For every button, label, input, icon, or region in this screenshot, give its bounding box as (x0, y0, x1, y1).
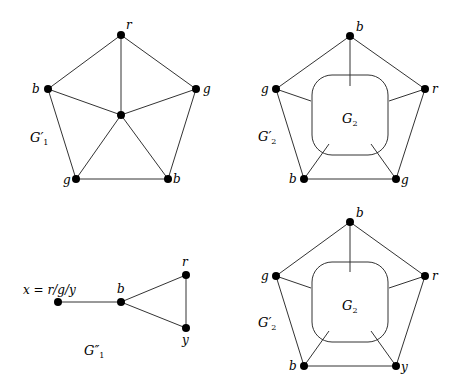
vertex (392, 362, 400, 370)
diagram-canvas: r b g g b G′1 b g r b g G2 G′2 x = r/g/y… (0, 0, 457, 392)
vertex-label: r (432, 82, 439, 96)
vertex-label: g (261, 82, 269, 96)
graph-label: G′2 (258, 315, 276, 332)
vertex-label: g (63, 173, 71, 187)
vertex-label: b (356, 20, 364, 34)
vertex (300, 175, 308, 183)
graph-g2-prime-top-edges (276, 36, 425, 179)
vertex-label: x = r/g/y (23, 283, 76, 297)
graph-label: G″1 (84, 343, 104, 360)
vertex (72, 175, 80, 183)
vertex-label: b (289, 172, 297, 186)
vertex-label: g (203, 82, 211, 96)
graph-label: G′1 (30, 130, 48, 147)
vertex-label: r (182, 255, 189, 269)
vertices (44, 31, 429, 370)
vertex-label: y (400, 360, 408, 374)
vertex (346, 218, 354, 226)
vertex (272, 272, 280, 280)
subgraph-label: G2 (342, 111, 357, 128)
vertex-label: g (401, 173, 409, 187)
vertex-label: b (32, 82, 40, 96)
vertex-label: b (117, 282, 125, 296)
vertex (300, 362, 308, 370)
graph-diagram: r b g g b G′1 b g r b g G2 G′2 x = r/g/y… (0, 0, 457, 392)
vertex (182, 271, 190, 279)
vertex (117, 111, 125, 119)
vertex-label: y (181, 333, 189, 347)
vertex-label: r (432, 269, 439, 283)
subgraph-label: G2 (342, 298, 357, 315)
vertex (182, 324, 190, 332)
vertex-label: b (173, 172, 181, 186)
vertex (346, 32, 354, 40)
vertex-label: g (261, 269, 269, 283)
vertex (421, 272, 429, 280)
vertex-label: b (289, 359, 297, 373)
graph-label: G′2 (258, 129, 276, 146)
vertex-label: r (126, 18, 133, 32)
vertex (164, 175, 172, 183)
vertex (44, 85, 52, 93)
vertex (117, 298, 125, 306)
vertex (272, 85, 280, 93)
vertex-label: b (356, 206, 364, 220)
vertex (117, 31, 125, 39)
graph-g2-prime-bottom-edges (276, 222, 425, 366)
graph-g1-prime-edges (48, 35, 196, 179)
vertex (54, 298, 62, 306)
vertex (392, 175, 400, 183)
vertex (192, 85, 200, 93)
vertex (421, 85, 429, 93)
